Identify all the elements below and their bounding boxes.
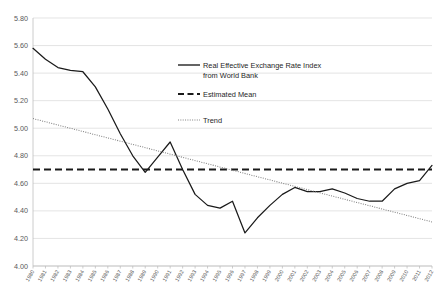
x-tick-label: 1996 [224,269,235,282]
y-tick-label: 4.00 [14,262,28,271]
x-tick-label: 1997 [236,269,247,282]
y-tick-label: 4.40 [14,206,28,215]
x-tick-label: 1994 [199,269,210,282]
x-tick-label: 1999 [261,269,272,282]
rer-line-chart: 4.004.204.404.604.805.005.205.405.605.80… [0,0,447,307]
gridlines [33,18,432,266]
x-tick-label: 1987 [111,269,122,282]
x-tick-label: 1988 [124,269,135,282]
x-tick-label: 1992 [174,269,185,282]
x-tick-label: 2007 [361,269,372,282]
y-tick-label: 5.40 [14,69,28,78]
x-tick-label: 2003 [311,269,322,282]
x-axis-tick-labels: 1980198119821983198419851986198719881989… [24,269,434,282]
axis-lines [33,18,432,266]
y-tick-label: 5.60 [14,41,28,50]
x-tick-label: 2012 [423,269,434,282]
x-tick-label: 1981 [37,269,48,282]
y-tick-label: 4.80 [14,151,28,160]
legend-item-label-continued: from World Bank [203,71,258,80]
x-tick-label: 2005 [336,269,347,282]
x-tick-label: 1990 [149,269,160,282]
x-tick-label: 2006 [348,269,359,282]
y-tick-label: 5.00 [14,124,28,133]
x-tick-label: 1991 [161,269,172,282]
x-tick-label: 2002 [298,269,309,282]
legend-item-label: Estimated Mean [203,90,256,99]
y-tick-label: 5.20 [14,96,28,105]
x-tick-label: 1982 [49,269,60,282]
y-axis-tick-labels: 4.004.204.404.604.805.005.205.405.605.80 [14,14,28,271]
x-tick-label: 1995 [211,269,222,282]
x-tick-label: 1985 [86,269,97,282]
x-tick-label: 1989 [136,269,147,282]
x-tick-label: 2010 [398,269,409,282]
x-tick-label: 2004 [323,269,334,282]
x-tick-label: 1986 [99,269,110,282]
x-tick-label: 2011 [411,269,422,282]
x-tick-label: 2008 [373,269,384,282]
chart-container: 4.004.204.404.604.805.005.205.405.605.80… [0,0,447,307]
x-tick-label: 1998 [249,269,260,282]
x-tick-label: 2000 [273,269,284,282]
chart-legend: Real Effective Exchange Rate Indexfrom W… [178,61,321,125]
x-tick-label: 2001 [286,269,297,282]
y-tick-label: 4.20 [14,234,28,243]
x-tick-label: 1980 [24,269,35,282]
legend-item-label: Trend [203,116,222,125]
x-tick-label: 1984 [74,269,85,282]
x-tick-label: 1993 [186,269,197,282]
y-tick-label: 5.80 [14,14,28,23]
legend-item-label: Real Effective Exchange Rate Index [203,61,321,70]
y-tick-label: 4.60 [14,179,28,188]
x-tick-label: 2009 [386,269,397,282]
x-tick-label: 1983 [61,269,72,282]
